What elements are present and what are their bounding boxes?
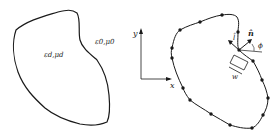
coordinate-axes bbox=[139, 28, 172, 81]
angle-label: ϕ bbox=[258, 42, 263, 50]
boundary-nodes bbox=[170, 13, 269, 129]
x-axis-label: x bbox=[170, 81, 175, 90]
y-arrow-icon bbox=[139, 28, 143, 34]
outer-medium-label: ε0,μ0 bbox=[95, 38, 115, 46]
normal-label: n̂ bbox=[248, 28, 254, 38]
inner-medium-label: εd,μd bbox=[44, 51, 64, 59]
width-label: w bbox=[232, 73, 238, 81]
tangent-label: l̂ bbox=[233, 32, 236, 42]
segment-width-box bbox=[229, 55, 248, 74]
diagram-canvas: εd,μd ε0,μ0 y x l̂ bbox=[0, 0, 278, 138]
y-axis-label: y bbox=[132, 29, 138, 38]
dielectric-boundary bbox=[14, 10, 110, 125]
